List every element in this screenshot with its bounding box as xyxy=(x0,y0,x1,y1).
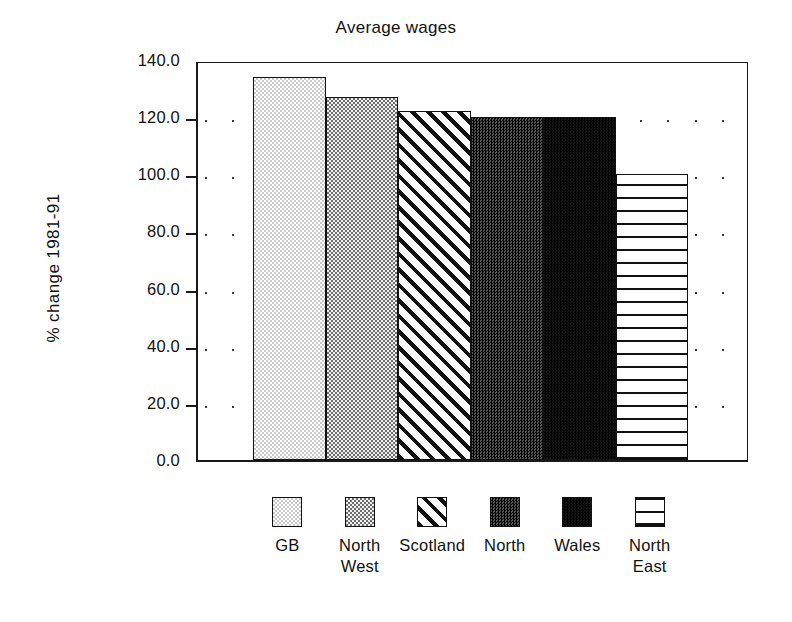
legend-swatch xyxy=(272,497,302,527)
chart-title: Average wages xyxy=(0,18,792,38)
y-axis-tick-label: 60.0 xyxy=(96,280,180,299)
bars-container xyxy=(198,63,747,460)
bar-north-west xyxy=(326,97,399,460)
legend-item-north-east[interactable]: North East xyxy=(606,497,695,577)
y-axis-tick-label: 140.0 xyxy=(96,51,180,70)
y-axis-tick-label: 20.0 xyxy=(96,394,180,413)
y-axis-tick-label: 0.0 xyxy=(96,451,180,470)
y-axis-tick-label: 120.0 xyxy=(96,108,180,127)
legend-swatch xyxy=(345,497,375,527)
legend-swatch xyxy=(562,497,592,527)
bar-wales xyxy=(543,117,616,460)
y-axis-tick-label: 80.0 xyxy=(96,222,180,241)
bar-gb xyxy=(253,77,326,460)
legend-label: North East xyxy=(606,535,695,577)
legend-swatch xyxy=(417,497,447,527)
chart-legend: GBNorth WestScotlandNorthWalesNorth East xyxy=(196,497,748,607)
y-axis-tick-label: 100.0 xyxy=(96,165,180,184)
legend-swatch xyxy=(490,497,520,527)
legend-swatch xyxy=(635,497,665,527)
bar-scotland xyxy=(398,111,471,460)
bar-north xyxy=(471,117,544,460)
y-axis-tick-label: 40.0 xyxy=(96,337,180,356)
bar-north-east xyxy=(616,174,689,460)
chart-figure: Average wages % change 1981-91 0.020.040… xyxy=(0,0,792,622)
plot-area xyxy=(196,62,748,462)
y-axis-title: % change 1981-91 xyxy=(44,118,64,418)
